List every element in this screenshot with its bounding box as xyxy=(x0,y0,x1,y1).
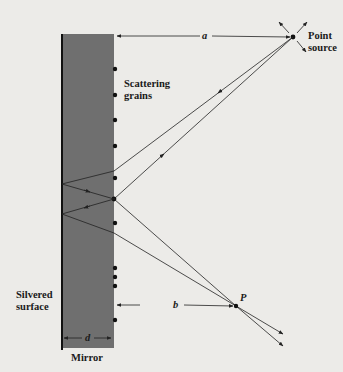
thickness-d-label: d xyxy=(85,332,90,344)
point-source-label-line1: Point xyxy=(308,30,337,42)
scattering-grains-label-line2: grains xyxy=(124,90,170,102)
scattering-grains-label-line1: Scattering xyxy=(124,78,170,90)
mirror-label: Mirror xyxy=(71,352,103,364)
point-source-label: Point source xyxy=(308,30,337,54)
silvered-surface-label-line1: Silvered xyxy=(16,289,53,301)
scattering-grains-label: Scattering grains xyxy=(124,78,170,102)
point-P-label: P xyxy=(240,292,246,304)
silvered-surface-label: Silvered surface xyxy=(16,289,53,313)
silvered-surface-label-line2: surface xyxy=(16,301,53,313)
mirror-scattering-diagram xyxy=(0,0,343,372)
diagram-stage: Point source Scattering grains Silvered … xyxy=(0,0,343,372)
distance-a-label: a xyxy=(202,30,207,42)
point-source-label-line2: source xyxy=(308,42,337,54)
point-P-marker xyxy=(234,304,238,308)
distance-b-label: b xyxy=(173,299,178,311)
